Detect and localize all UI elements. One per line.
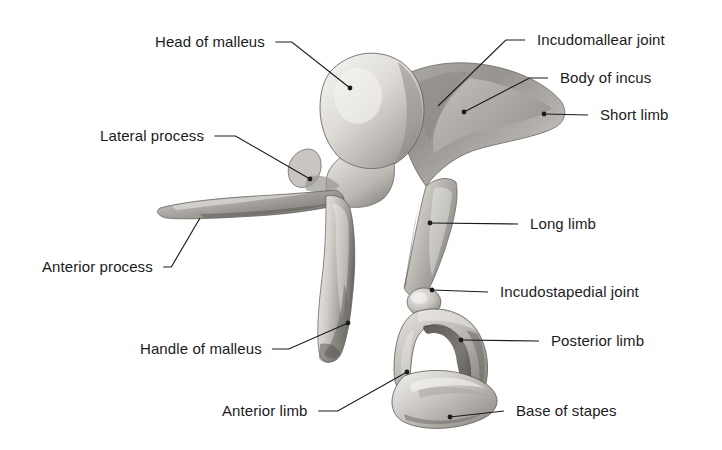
leader-dot-anterior-limb <box>405 370 410 375</box>
label-anterior-limb: Anterior limb <box>222 403 308 418</box>
anatomy-figure: Head of malleusIncudomallear jointBody o… <box>0 0 722 450</box>
ossicle-illustration <box>0 0 722 450</box>
leader-line-incudostapedial-joint <box>432 290 488 292</box>
leader-dot-body-of-incus <box>462 110 467 115</box>
leader-dot-lateral-process <box>308 177 313 182</box>
leader-dot-posterior-limb <box>459 338 464 343</box>
label-long-limb: Long limb <box>530 216 596 231</box>
leader-dot-short-limb <box>542 112 547 117</box>
leader-dot-long-limb <box>428 221 433 226</box>
leader-dot-incudostapedial-joint <box>430 288 435 293</box>
label-posterior-limb: Posterior limb <box>551 333 644 348</box>
incus-long-limb-group <box>404 179 457 300</box>
label-anterior-process: Anterior process <box>42 259 153 274</box>
label-lateral-process: Lateral process <box>100 128 204 143</box>
malleus-handle-group <box>318 196 355 363</box>
anterior-process-group <box>158 190 344 219</box>
label-head-of-malleus: Head of malleus <box>155 34 265 49</box>
malleus-head-group <box>320 53 424 170</box>
leader-dot-head-of-malleus <box>348 86 353 91</box>
label-body-of-incus: Body of incus <box>560 70 651 85</box>
leader-dot-handle-of-malleus <box>346 321 351 326</box>
label-base-of-stapes: Base of stapes <box>516 403 617 418</box>
leader-line-anterior-process <box>163 218 200 267</box>
label-incudomallear-joint: Incudomallear joint <box>537 32 665 47</box>
label-handle-of-malleus: Handle of malleus <box>140 341 262 356</box>
label-incudostapedial-joint: Incudostapedial joint <box>500 284 639 299</box>
label-short-limb: Short limb <box>600 107 669 122</box>
leader-dot-base-of-stapes <box>448 415 453 420</box>
